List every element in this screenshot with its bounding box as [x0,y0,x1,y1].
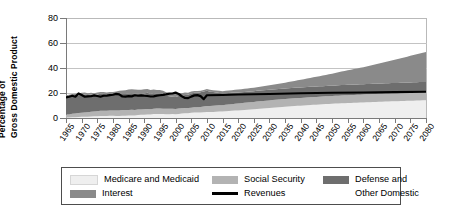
legend-swatch-revenues [212,192,238,195]
x-axis-tick-label: 2005 [183,122,201,143]
x-axis-tick-label: 2045 [308,122,326,143]
x-axis-tick-label: 1970 [74,122,92,143]
legend-item-defense-and-other-domestic: Defense and [323,174,407,185]
x-axis-tick-label: 1965 [58,122,76,143]
legend-swatch-social-security [212,176,238,184]
x-axis-tick-label: 1980 [105,122,123,143]
x-axis-tick-labels: 1965197019751980198519901995200020052010… [0,122,450,156]
legend-label-defense-and-other-domestic-line-2: Other Domestic [355,188,419,199]
x-axis-tick-label: 2030 [261,122,279,143]
legend-item-social-security: Social Security [212,174,305,185]
x-axis-tick-label: 2060 [355,122,373,143]
x-axis-tick-label: 2025 [246,122,264,143]
x-axis-tick-label: 2075 [402,122,420,143]
x-axis-tick-label: 1995 [152,122,170,143]
x-axis-tick-label: 2050 [324,122,342,143]
legend-swatch-medicare-and-medicaid [70,175,98,185]
x-axis-tick-label: 2070 [387,122,405,143]
legend-label-interest: Interest [102,188,133,198]
x-axis-tick-label: 1990 [136,122,154,143]
legend-label-revenues: Revenues [244,188,285,198]
x-axis-tick-label: 2010 [199,122,217,143]
x-axis-tick-label: 2040 [293,122,311,143]
legend-item-medicare-and-medicaid: Medicare and Medicaid [70,174,199,185]
x-axis-tick-label: 1985 [121,122,139,143]
x-axis-tick-label: 2080 [418,122,436,143]
chart-figure: Percentage of Gross Domestic Product 020… [0,0,450,214]
legend-label-social-security: Social Security [244,174,305,184]
legend-swatch-defense-and-other-domestic [323,176,349,184]
x-axis-tick-label: 2020 [230,122,248,143]
legend-item-interest: Interest [70,188,133,199]
legend-label-medicare-and-medicaid: Medicare and Medicaid [104,174,199,184]
legend-item-revenues: Revenues [212,188,285,199]
x-axis-tick-label: 1975 [89,122,107,143]
x-axis-tick-label: 2055 [340,122,358,143]
x-axis-tick-label: 2015 [215,122,233,143]
x-axis-tick-label: 2065 [371,122,389,143]
x-axis-tick-label: 2000 [168,122,186,143]
legend-label-defense-and-other-domestic-line-1: Defense and [355,174,407,184]
legend-swatch-interest [70,190,96,198]
chart-legend: Medicare and Medicaid Interest Social Se… [61,167,401,205]
x-axis-tick-label: 2035 [277,122,295,143]
